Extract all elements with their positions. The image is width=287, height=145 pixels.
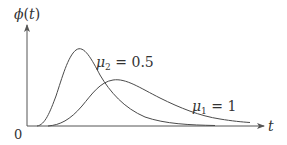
y-axis-label-func: ϕ bbox=[14, 6, 24, 22]
y-axis-label-close: ) bbox=[35, 6, 40, 22]
mu2-value: 0.5 bbox=[131, 54, 153, 70]
phi-of-t-diagram: ϕ(t) 0 t μ2 = 0.5 μ1 = 1 bbox=[0, 0, 287, 145]
y-axis-label: ϕ(t) bbox=[14, 7, 40, 21]
mu1-equals: = bbox=[207, 98, 228, 114]
curve-label-mu2: μ2 = 0.5 bbox=[96, 55, 154, 72]
mu1-symbol: μ bbox=[192, 98, 201, 114]
x-axis-label: t bbox=[268, 119, 274, 133]
mu2-equals: = bbox=[111, 54, 132, 70]
curve-label-mu1: μ1 = 1 bbox=[192, 99, 236, 116]
origin-label: 0 bbox=[14, 128, 22, 141]
plot-canvas bbox=[0, 0, 287, 145]
mu2-symbol: μ bbox=[96, 54, 105, 70]
mu1-value: 1 bbox=[227, 98, 236, 114]
